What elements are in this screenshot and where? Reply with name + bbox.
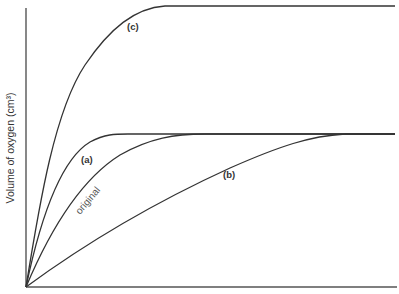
oxygen-volume-chart: (c) (a) (b) original Volume of oxygen (c…	[0, 0, 399, 294]
curve-c	[26, 6, 395, 287]
label-c: (c)	[127, 21, 139, 32]
y-axis-title: Volume of oxygen (cm³)	[4, 93, 16, 204]
label-original: original	[73, 185, 102, 217]
label-b: (b)	[223, 169, 235, 180]
label-a: (a)	[81, 154, 93, 165]
